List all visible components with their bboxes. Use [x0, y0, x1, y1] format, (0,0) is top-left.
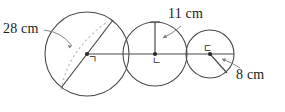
figure-canvas — [0, 0, 285, 112]
circle-a-name-label: ㄱ — [88, 55, 97, 65]
circle-c-measure-label: 8 cm — [236, 68, 264, 82]
geometry-figure: 28 cm 11 cm 8 cm ㄱ ㄴ ㄷ — [0, 0, 285, 112]
circle-a-measure-label: 28 cm — [3, 22, 39, 36]
circle-c-name-label: ㄷ — [203, 44, 212, 54]
circle-b-name-label: ㄴ — [152, 56, 161, 66]
circle-b-measure-label: 11 cm — [168, 7, 203, 21]
circle-c-radius-line — [210, 54, 227, 73]
